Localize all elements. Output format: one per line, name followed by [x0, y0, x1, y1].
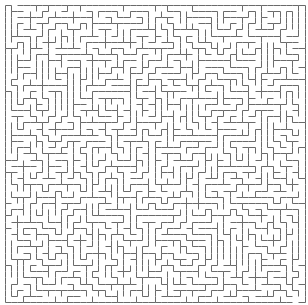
- maze: [0, 0, 308, 305]
